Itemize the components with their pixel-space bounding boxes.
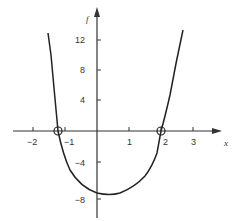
svg-text:3: 3 (191, 137, 196, 147)
svg-text:12: 12 (75, 35, 85, 45)
svg-text:−2: −2 (27, 137, 37, 147)
svg-text:8: 8 (80, 65, 85, 75)
svg-text:−4: −4 (75, 158, 85, 168)
svg-text:−1: −1 (64, 137, 74, 147)
function-plot: −2 −1 1 2 3 x 12 8 4 −4 −8 f (0, 0, 240, 221)
svg-text:−8: −8 (75, 195, 85, 205)
x-axis-label: x (223, 138, 228, 148)
svg-text:1: 1 (127, 137, 132, 147)
svg-text:4: 4 (80, 95, 85, 105)
function-curve (48, 30, 183, 195)
x-axis-arrow-icon (212, 128, 222, 134)
x-tick-labels: −2 −1 1 2 3 (27, 137, 196, 147)
svg-text:2: 2 (163, 137, 168, 147)
y-axis-arrow-icon (94, 7, 100, 17)
y-axis-label: f (86, 14, 90, 24)
